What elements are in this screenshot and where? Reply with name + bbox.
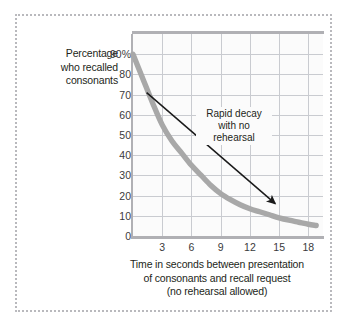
x-axis-label-line-3: (no rehearsal allowed) (103, 285, 331, 299)
x-axis-label-line-2: of consonants and recall request (103, 272, 331, 286)
annotation-line-2: with no (198, 120, 270, 132)
x-tick-label: 6 (179, 241, 203, 253)
y-tick-label: 30 (97, 170, 131, 180)
y-tick-label: 50 (97, 130, 131, 140)
y-tick-label: 20 (97, 191, 131, 201)
x-axis-tick-labels: 369121518 (133, 241, 323, 255)
annotation-line-3: rehearsal (198, 132, 270, 144)
memory-decay-chart-figure: Percentage who recalled consonants 01020… (0, 0, 347, 331)
y-tick-label: 40 (97, 150, 131, 160)
annotation-line-1: Rapid decay (198, 108, 270, 120)
y-tick-label: 70 (97, 90, 131, 100)
y-tick-label: 0 (97, 231, 131, 241)
y-tick-label: 60 (97, 110, 131, 120)
rapid-decay-annotation: Rapid decay with no rehearsal (196, 107, 272, 145)
x-tick-label: 15 (267, 241, 291, 253)
x-axis-label: Time in seconds between presentation of … (103, 258, 331, 299)
x-tick-label: 9 (209, 241, 233, 253)
x-tick-label: 3 (150, 241, 174, 253)
x-axis-label-line-1: Time in seconds between presentation (103, 258, 331, 272)
y-tick-label: 90% (97, 49, 131, 59)
axis-bottom-rule (132, 236, 324, 239)
y-tick-label: 80 (97, 69, 131, 79)
y-tick-label: 10 (97, 211, 131, 221)
x-tick-label: 12 (238, 241, 262, 253)
x-tick-label: 18 (296, 241, 320, 253)
y-axis-tick-labels: 0102030405060708090% (93, 34, 131, 236)
